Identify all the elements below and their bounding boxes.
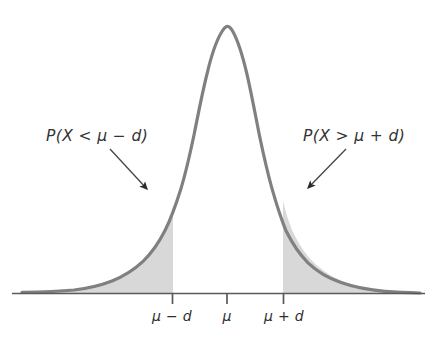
right-tail-shaded-region <box>283 201 420 293</box>
distribution-plot <box>0 0 438 355</box>
left-tail-probability-label: P(X < μ − d) <box>46 127 148 145</box>
tick-label-mu-plus-d: μ + d <box>264 308 304 324</box>
normal-curve <box>22 26 420 293</box>
tick-label-mu-minus-d: μ − d <box>152 308 192 324</box>
normal-distribution-figure: P(X < μ − d) P(X > μ + d) μ − d μ μ + d <box>0 0 438 355</box>
left-tail-pointer-arrow <box>110 149 147 189</box>
right-tail-probability-label: P(X > μ + d) <box>303 127 405 145</box>
right-tail-pointer-arrow <box>308 149 346 188</box>
tick-label-mu: μ <box>222 308 231 324</box>
